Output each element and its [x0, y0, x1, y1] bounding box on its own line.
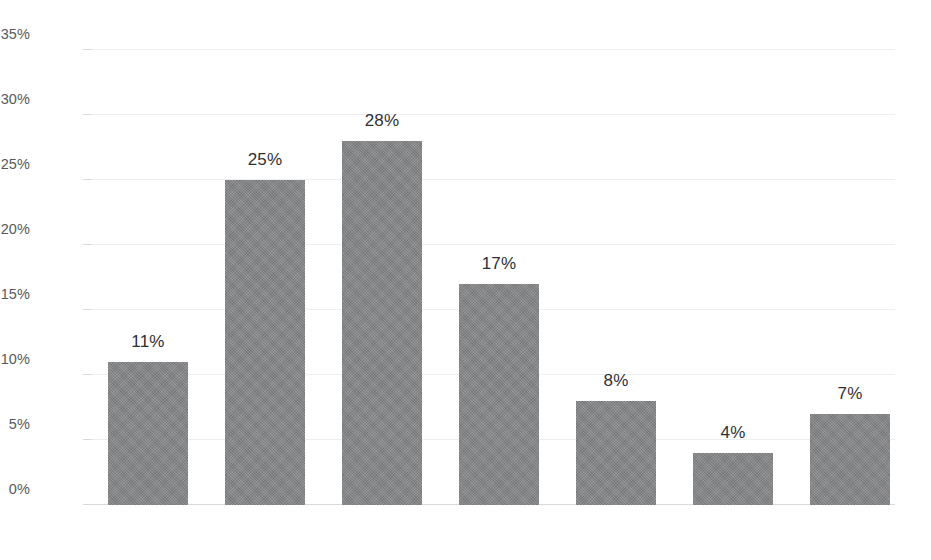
bar-value-label: 17% — [459, 254, 539, 274]
y-axis-tick-label: 30% — [0, 91, 30, 107]
y-axis-tick-label: 0% — [0, 481, 30, 497]
bar-chart: 0%5%10%15%20%25%30%35%11%$0–$14925%$150–… — [0, 0, 931, 560]
y-axis-tick-mark — [83, 244, 92, 245]
bar — [576, 401, 656, 505]
y-axis-tick-label: 35% — [0, 26, 30, 42]
bar — [459, 284, 539, 505]
bar — [693, 453, 773, 505]
gridline — [92, 244, 895, 245]
bar-value-label: 28% — [342, 111, 422, 131]
bar — [225, 180, 305, 505]
bar-value-label: 4% — [693, 423, 773, 443]
gridline — [92, 114, 895, 115]
bar — [342, 141, 422, 505]
bar-value-label: 25% — [225, 150, 305, 170]
plot-area: 0%5%10%15%20%25%30%35%11%$0–$14925%$150–… — [92, 50, 895, 505]
y-axis-tick-mark — [83, 49, 92, 50]
y-axis-tick-label: 10% — [0, 351, 30, 367]
gridline — [92, 179, 895, 180]
bar-value-label: 7% — [810, 384, 890, 404]
bar-value-label: 11% — [108, 332, 188, 352]
y-axis-tick-mark — [83, 114, 92, 115]
y-axis-tick-label: 15% — [0, 286, 30, 302]
y-axis-tick-mark — [83, 309, 92, 310]
gridline — [92, 49, 895, 50]
y-axis-tick-label: 5% — [0, 416, 30, 432]
bar — [108, 362, 188, 505]
y-axis-tick-label: 20% — [0, 221, 30, 237]
bar — [810, 414, 890, 505]
y-axis-tick-mark — [83, 179, 92, 180]
y-axis-tick-label: 25% — [0, 156, 30, 172]
bar-value-label: 8% — [576, 371, 656, 391]
y-axis-tick-mark — [83, 439, 92, 440]
y-axis-tick-mark — [83, 504, 92, 505]
y-axis-tick-mark — [83, 374, 92, 375]
